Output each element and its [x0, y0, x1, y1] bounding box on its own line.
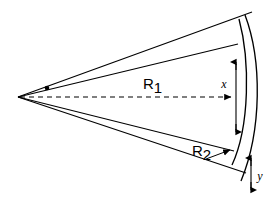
upper-outer-ray [18, 12, 252, 97]
lower-outer-ray [18, 97, 246, 173]
upper-inner-ray [18, 44, 238, 97]
wedge-geometry-figure: R1 R2 x y [0, 0, 273, 200]
ray-marker-dot [45, 86, 50, 91]
label-x: x [220, 77, 227, 91]
label-r1-subscript: 1 [154, 79, 162, 96]
label-r1-base: R [143, 75, 154, 92]
diagram-canvas: R1 R2 x y [0, 0, 273, 200]
label-r2-subscript: 2 [203, 146, 211, 163]
label-y: y [256, 169, 263, 183]
label-r2: R2 [192, 142, 211, 163]
label-r2-base: R [192, 142, 203, 159]
label-r1: R1 [143, 75, 162, 96]
inner-arc [232, 19, 247, 165]
